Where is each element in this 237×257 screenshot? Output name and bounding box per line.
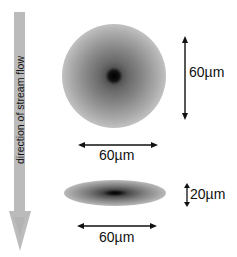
round-spot-height-label: 60µm bbox=[189, 64, 224, 80]
round-spot-width-label: 60µm bbox=[99, 147, 134, 163]
flat-spot-width-label: 60µm bbox=[99, 229, 134, 245]
flat-spot-height-label: 20µm bbox=[190, 186, 225, 202]
flow-direction-label: direction of stream flow bbox=[14, 56, 26, 164]
flat-particle-spot bbox=[64, 180, 166, 206]
round-particle-spot bbox=[62, 24, 166, 128]
